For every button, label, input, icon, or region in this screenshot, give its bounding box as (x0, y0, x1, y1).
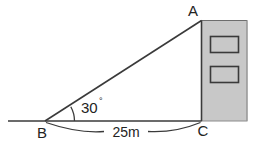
vertex-label-a: A (188, 2, 198, 19)
dimension-arc-right (148, 123, 201, 132)
base-dimension-label: 25m (112, 124, 139, 140)
angle-arc (71, 107, 75, 121)
figure-canvas: A B C 30 ° 25m (0, 0, 259, 149)
vertex-label-c: C (198, 122, 209, 139)
dimension-arc-left (46, 123, 104, 132)
line-of-sight-ba (45, 21, 202, 122)
geometry-diagram: A B C 30 ° 25m (0, 0, 259, 149)
degree-symbol-icon: ° (99, 96, 103, 106)
building-window-upper (211, 37, 239, 53)
vertex-label-b: B (37, 124, 47, 141)
building-window-lower (211, 67, 239, 83)
angle-value-label: 30 (81, 99, 98, 116)
